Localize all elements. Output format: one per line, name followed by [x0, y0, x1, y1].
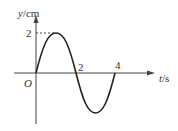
x-tick-2: 2: [78, 62, 84, 73]
origin-label: O: [24, 78, 32, 89]
y-tick-2: 2: [26, 28, 32, 39]
x-axis-label: t/s: [159, 73, 169, 84]
x-tick-4: 4: [115, 60, 121, 71]
y-axis-label: y/cm: [18, 8, 39, 19]
chart-canvas: [0, 0, 178, 131]
x-axis-arrow-icon: [147, 71, 155, 76]
